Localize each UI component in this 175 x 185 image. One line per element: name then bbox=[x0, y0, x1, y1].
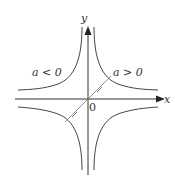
label-a-positive: a > 0 bbox=[113, 66, 143, 79]
origin-label: 0 bbox=[89, 101, 96, 114]
hyperbola-diagram: y x 0 a < 0 a > 0 bbox=[0, 0, 175, 185]
curve-a-positive-q1 bbox=[94, 27, 158, 90]
x-axis-label: x bbox=[164, 93, 171, 106]
y-axis-arrow-icon bbox=[85, 26, 92, 35]
curve-a-negative-q4 bbox=[94, 107, 158, 170]
curve-a-negative-q2 bbox=[18, 27, 82, 90]
y-axis-label: y bbox=[80, 12, 88, 25]
label-a-negative: a < 0 bbox=[32, 66, 62, 79]
